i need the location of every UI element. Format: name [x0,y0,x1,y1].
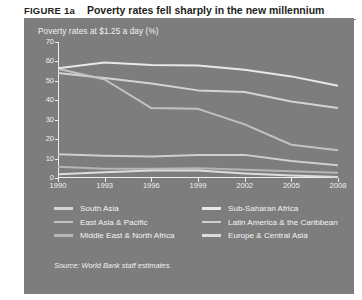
x-axis-tick-label: 2008 [330,181,347,190]
y-axis-tick [55,159,58,160]
legend-swatch [54,234,73,237]
y-axis-tick [55,61,58,62]
legend-label: Europe & Central Asia [228,231,308,240]
series-line [58,154,338,165]
legend-label: Latin America & the Caribbean [228,218,338,227]
legend-item[interactable]: East Asia & Pacific [54,218,196,227]
y-axis-tick [55,120,58,121]
series-line [58,69,338,150]
series-lines [58,42,338,178]
y-axis-tick-label: 10 [46,155,54,163]
legend-swatch [202,221,221,224]
x-axis-tick-label: 1990 [50,181,67,190]
x-axis-tick-label: 1999 [190,181,207,190]
legend-swatch [54,221,73,224]
legend-label: Sub-Saharan Africa [228,204,298,213]
plot-area: 010203040506070 199019931996199920022005… [38,42,338,194]
legend-item[interactable]: South Asia [54,204,196,213]
x-axis-tick-label: 2002 [236,181,253,190]
figure-title: Poverty rates fell sharply in the new mi… [87,4,325,16]
legend-label: Middle East & North Africa [80,231,174,240]
figure-root: FIGURE 1a Poverty rates fell sharply in … [0,0,362,300]
figure-label: FIGURE 1a [24,5,75,16]
legend-item[interactable]: Latin America & the Caribbean [202,218,344,227]
y-axis-tick-label: 40 [46,97,54,105]
x-axis-labels: 1990199319961999200220052008 [58,181,338,195]
x-axis-tick-label: 1993 [96,181,113,190]
chart-subtitle: Poverty rates at $1.25 a day (%) [38,27,159,36]
y-axis-tick [55,100,58,101]
legend-item[interactable]: Europe & Central Asia [202,231,344,240]
x-axis-tick-label: 1996 [143,181,160,190]
y-axis-labels: 010203040506070 [38,42,56,178]
y-axis-tick-label: 20 [46,135,54,143]
legend-item[interactable]: Sub-Saharan Africa [202,204,344,213]
y-axis-tick-label: 50 [46,77,54,85]
legend-label: South Asia [80,204,119,213]
y-axis-tick [55,42,58,43]
legend-swatch [54,207,73,210]
y-axis-tick [55,139,58,140]
y-axis-tick-label: 60 [46,58,54,66]
y-axis-tick-label: 70 [46,38,54,46]
chart-axes [58,42,338,178]
y-axis-tick [55,81,58,82]
legend-label: East Asia & Pacific [80,218,147,227]
source-note: Source: World Bank staff estimates. [54,261,171,270]
chart-legend: South AsiaSub-Saharan AfricaEast Asia & … [54,204,344,240]
y-axis-tick-label: 30 [46,116,54,124]
x-axis-tick-label: 2005 [283,181,300,190]
figure-title-row: FIGURE 1a Poverty rates fell sharply in … [0,0,362,19]
series-line [58,63,338,86]
legend-item[interactable]: Middle East & North Africa [54,231,196,240]
legend-swatch [202,207,221,210]
legend-swatch [202,234,221,237]
chart-panel: Poverty rates at $1.25 a day (%) 0102030… [24,18,354,294]
